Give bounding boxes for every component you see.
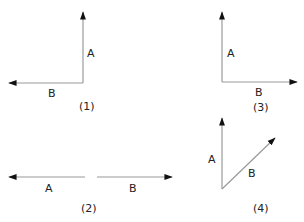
figure-caption: (3)	[253, 101, 269, 114]
vector-b-label: B	[48, 87, 56, 100]
vector-b-label: B	[255, 86, 263, 99]
figure-caption: (4)	[253, 202, 269, 215]
vector-a-label: A	[87, 47, 95, 60]
figure-4: A B (4)	[208, 118, 275, 215]
vector-a-label: A	[208, 153, 216, 166]
figure-2: A B (2)	[9, 177, 172, 215]
figure-caption: (2)	[81, 202, 97, 215]
vector-b-label: B	[129, 182, 137, 195]
figure-1: A B (1)	[9, 12, 95, 113]
figure-caption: (1)	[79, 100, 95, 113]
figure-3: A B (3)	[222, 12, 297, 114]
vector-a-label: A	[45, 182, 53, 195]
vector-b-label: B	[248, 167, 256, 180]
vector-b-diagonal	[222, 138, 275, 189]
vector-a-label: A	[227, 47, 235, 60]
vector-diagram: A B (1) A B (3) A B (2) A B (4)	[0, 0, 304, 222]
